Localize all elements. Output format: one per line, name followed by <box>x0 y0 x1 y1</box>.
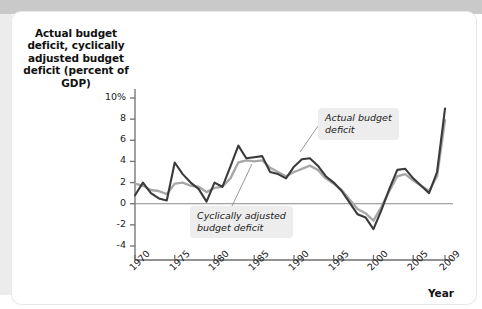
y-axis-tick-label: -2 <box>92 218 126 229</box>
y-axis-tick-label: 2 <box>92 176 126 187</box>
figure-page: Actual budget deficit, cyclically adjust… <box>0 0 482 309</box>
y-axis-tick-label: 6 <box>92 133 126 144</box>
x-axis-title: Year <box>428 287 454 299</box>
annotation-leader-actual <box>300 126 318 152</box>
annotation-actual-budget-deficit: Actual budget deficit <box>318 108 399 140</box>
y-axis-tick-label: 10% <box>92 91 126 102</box>
y-axis-tick-label: 8 <box>92 112 126 123</box>
y-axis-tick-label: -4 <box>92 239 126 250</box>
y-axis-tick-label: 4 <box>92 154 126 165</box>
annotation-cyclically-adjusted-budget-deficit: Cyclically adjusted budget deficit <box>190 206 293 238</box>
y-axis-tick-label: 0 <box>92 197 126 208</box>
